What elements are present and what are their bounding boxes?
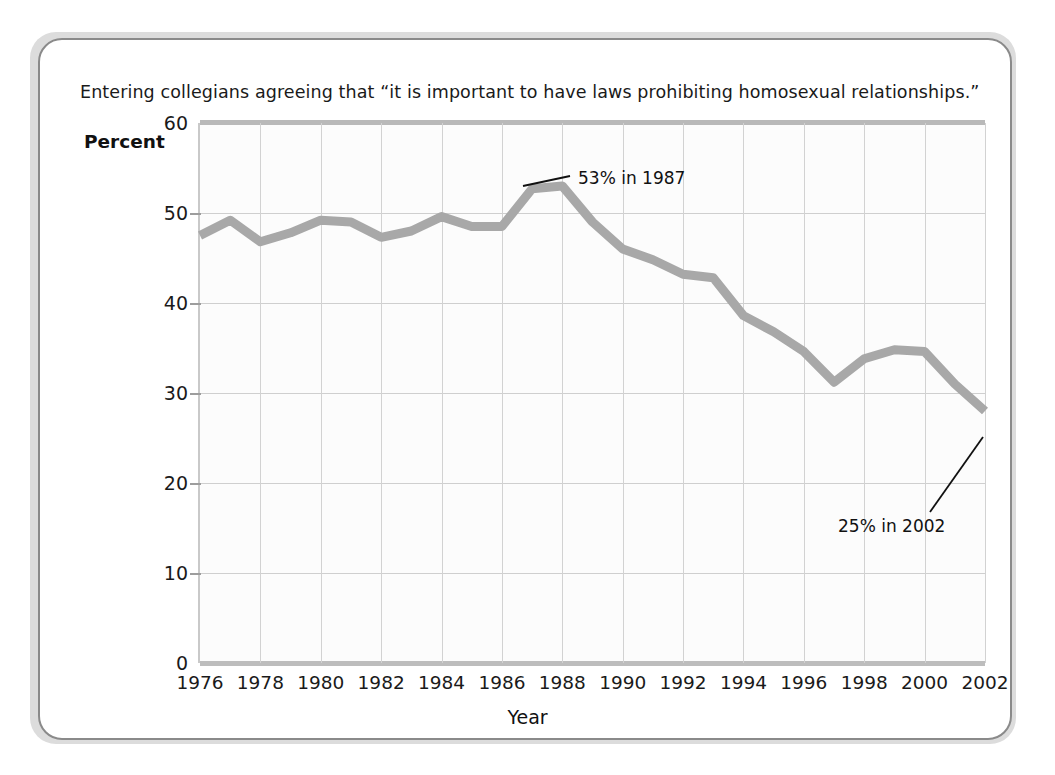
y-axis-tick-label: 30 <box>144 382 188 404</box>
y-axis-tick-label: 40 <box>144 292 188 314</box>
annotation-peak-label: 53% in 1987 <box>578 168 685 188</box>
plot-area <box>200 123 985 663</box>
y-axis-tick-label: 50 <box>144 202 188 224</box>
x-axis-label: Year <box>0 706 1055 728</box>
annotation-end-label: 25% in 2002 <box>838 516 945 536</box>
chart-title: Entering collegians agreeing that “it is… <box>80 82 979 102</box>
y-axis-tick-mark <box>190 573 201 575</box>
y-axis-tick-label: 60 <box>144 112 188 134</box>
chart-page: Entering collegians agreeing that “it is… <box>0 0 1055 775</box>
data-series-line <box>200 123 985 663</box>
y-axis-tick-labels: 0102030405060 <box>138 123 188 663</box>
y-axis-tick-mark <box>190 483 201 485</box>
gridline-vertical <box>985 123 986 663</box>
y-axis-tick-label: 20 <box>144 472 188 494</box>
y-axis-tick-mark <box>190 303 201 305</box>
y-axis-tick-label: 10 <box>144 562 188 584</box>
x-axis-tick-label: 2002 <box>950 672 1020 693</box>
y-axis-tick-mark <box>190 213 201 215</box>
y-axis-tick-label: 0 <box>144 652 188 674</box>
y-axis-tick-mark <box>190 393 201 395</box>
